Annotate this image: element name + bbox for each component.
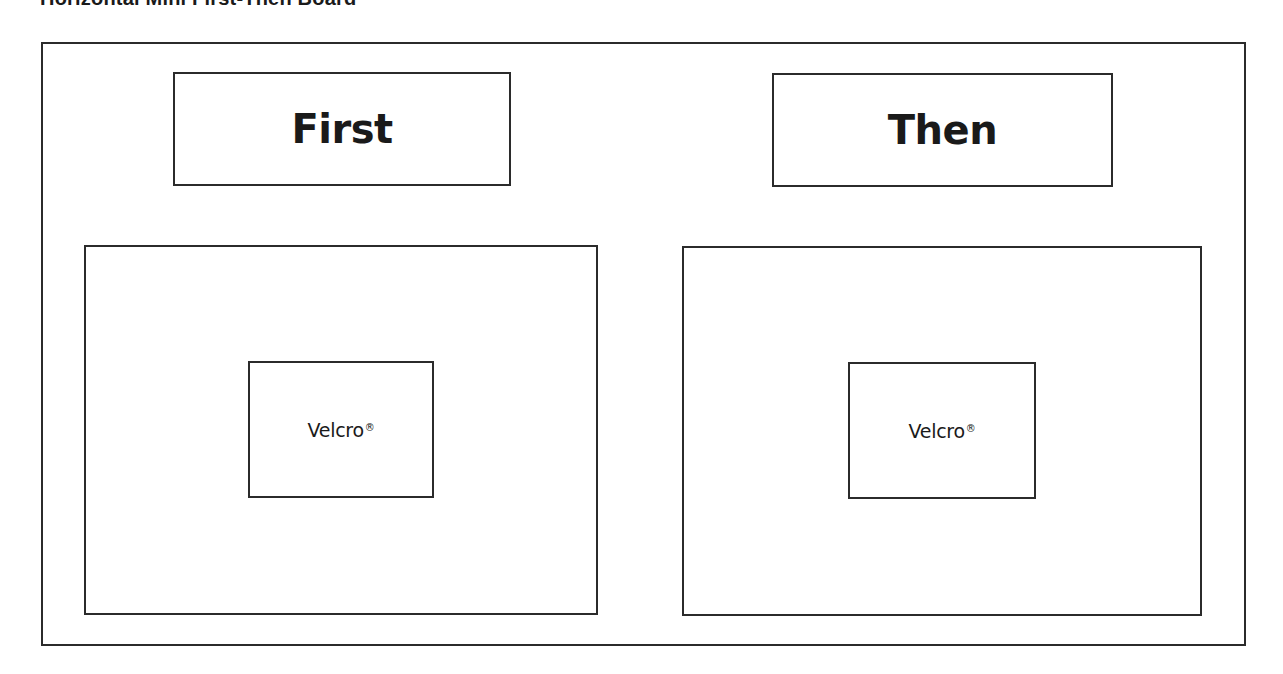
registered-mark-icon: ® [365,422,375,433]
first-velcro-spot: Velcro® [248,361,434,498]
first-velcro-label: Velcro® [308,419,375,441]
then-velcro-label: Velcro® [909,420,976,442]
registered-mark-icon: ® [966,423,976,434]
then-label-box: Then [772,73,1113,187]
first-label-box: First [173,72,511,186]
first-label: First [291,106,392,152]
then-velcro-spot: Velcro® [848,362,1036,499]
document-title: Horizontal Mini First-Then Board [40,0,356,10]
then-label: Then [888,107,997,153]
